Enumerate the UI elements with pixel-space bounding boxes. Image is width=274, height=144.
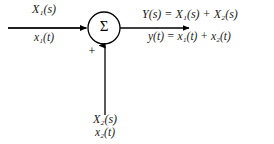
output-time-equation: y(t) = x₁(t) + x₂(t)	[148, 31, 231, 43]
output-laplace-equation: Y(s) = X₁(s) + X₂(s)	[142, 8, 238, 20]
input-2-time-label: x₂(t)	[75, 127, 135, 139]
signal-flow-graphic	[0, 0, 274, 144]
plus-sign-label: +	[86, 44, 98, 59]
sigma-icon: Σ	[88, 18, 120, 35]
input-1-laplace-label: X₁(s)	[8, 3, 80, 15]
diagram-canvas: Σ + X₁(s) x₁(t) Y(s) = X₁(s) + X₂(s) y(t…	[0, 0, 274, 144]
input-2-laplace-label: X₂(s)	[75, 113, 135, 125]
input-1-time-label: x₁(t)	[8, 32, 80, 44]
